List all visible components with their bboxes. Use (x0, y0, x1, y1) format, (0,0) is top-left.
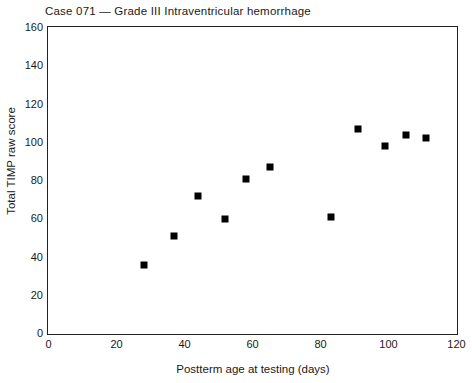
x-tick-label: 120 (447, 338, 465, 351)
y-tick-label: 100 (0, 136, 43, 149)
y-tick-label: 140 (0, 59, 43, 72)
data-point-marker (422, 135, 429, 142)
x-axis-title: Postterm age at testing (days) (176, 363, 329, 375)
y-tick-label: 60 (0, 212, 43, 225)
y-tick-label: 120 (0, 98, 43, 111)
y-tick-label: 160 (0, 21, 43, 34)
y-tick-label: 40 (0, 251, 43, 264)
x-tick-label: 100 (379, 338, 397, 351)
plot-area (47, 26, 458, 335)
chart-title: Case 071 — Grade III Intraventricular he… (45, 5, 311, 17)
y-tick-label: 20 (0, 289, 43, 302)
data-point-marker (402, 131, 409, 138)
data-point-marker (266, 164, 273, 171)
x-tick-label: 0 (45, 338, 51, 351)
data-point-marker (171, 232, 178, 239)
y-tick-label: 80 (0, 174, 43, 187)
data-point-marker (195, 192, 202, 199)
data-point-marker (354, 125, 361, 132)
x-tick-label: 20 (110, 338, 122, 351)
data-point-marker (327, 213, 334, 220)
data-point-marker (242, 175, 249, 182)
x-tick-label: 80 (314, 338, 326, 351)
x-tick-label: 60 (246, 338, 258, 351)
data-point-marker (140, 261, 147, 268)
x-tick-label: 40 (178, 338, 190, 351)
scatter-figure: Case 071 — Grade III Intraventricular he… (0, 0, 472, 383)
y-axis-title: Total TIMP raw score (5, 107, 17, 215)
data-point-marker (222, 215, 229, 222)
data-point-marker (382, 143, 389, 150)
y-tick-label: 0 (0, 327, 43, 340)
